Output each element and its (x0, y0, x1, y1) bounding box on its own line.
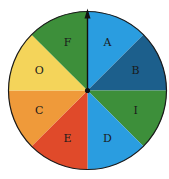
sector-label: B (132, 64, 140, 77)
sector-label: A (102, 36, 112, 49)
sector-label: C (35, 104, 43, 117)
spinner-wheel: ABIDECOF (0, 0, 169, 179)
sector-label: I (133, 104, 137, 117)
center-hub (85, 88, 90, 93)
sector-label: D (103, 132, 112, 145)
sector-label: E (64, 132, 72, 145)
sector-label: F (64, 36, 72, 49)
sector-label: O (35, 64, 44, 77)
